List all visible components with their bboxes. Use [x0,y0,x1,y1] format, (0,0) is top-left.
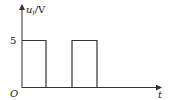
x-axis-label: t [158,89,163,100]
y-axis-label: ui/V [26,4,46,17]
waveform-diagram: ui/V 5 O t [0,0,173,100]
y-axis-unit: /V [35,4,46,15]
y-tick-5: 5 [10,35,16,46]
pulse-waveform [22,41,97,88]
origin-label: O [10,88,18,99]
